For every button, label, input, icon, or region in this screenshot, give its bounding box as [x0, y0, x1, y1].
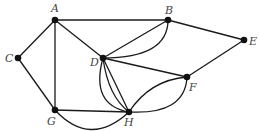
edge-h-f: [129, 77, 187, 112]
node-g: [52, 107, 59, 114]
node-label-d: D: [89, 56, 99, 69]
edge-b-d: [103, 20, 168, 58]
edge-g-h: [55, 110, 129, 112]
edge-d-f: [103, 58, 187, 77]
edge-a-d: [55, 20, 103, 58]
edge-c-g: [18, 58, 55, 110]
node-label-f: F: [188, 81, 197, 94]
graph-svg: ABCDEFGH: [0, 0, 259, 131]
node-b: [165, 17, 172, 24]
node-d: [100, 55, 107, 62]
node-f: [184, 74, 191, 81]
edge-e-f: [187, 40, 244, 77]
edge-b-e: [168, 20, 244, 40]
node-e: [241, 37, 248, 44]
node-label-c: C: [5, 52, 14, 65]
edge-h-f-2: [129, 77, 187, 112]
edge-d-h: [103, 58, 129, 112]
node-label-a: A: [50, 2, 59, 15]
node-label-g: G: [47, 115, 56, 128]
edge-g-h-2: [55, 110, 129, 130]
node-c: [15, 55, 22, 62]
node-label-b: B: [164, 4, 173, 17]
node-label-h: H: [123, 116, 134, 129]
node-h: [126, 109, 133, 116]
node-label-e: E: [248, 35, 257, 48]
edge-a-c: [18, 20, 55, 58]
node-a: [52, 17, 59, 24]
graph-diagram: ABCDEFGH: [0, 0, 259, 131]
